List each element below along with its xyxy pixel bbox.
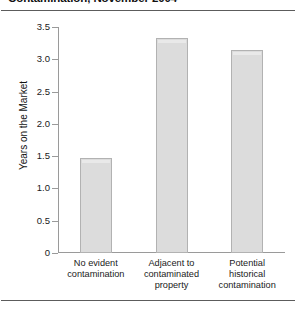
- y-axis-tick: [52, 188, 58, 189]
- y-axis-title: Years on the Market: [18, 56, 29, 196]
- y-axis-tick: [52, 221, 58, 222]
- figure-caption: Contamination, November 2004: [8, 0, 177, 4]
- bar: [80, 158, 112, 253]
- x-axis-label-line: Potential: [204, 258, 290, 269]
- x-axis-label: Adjacent tocontaminatedproperty: [129, 258, 215, 291]
- horizontal-rule-top: [1, 10, 295, 11]
- x-axis-label-line: property: [129, 280, 215, 291]
- y-axis-tick: [52, 124, 58, 125]
- x-axis-label-line: No evident: [53, 258, 139, 269]
- x-axis-label: No evidentcontamination: [53, 258, 139, 280]
- y-axis-tick-label: 3.5: [22, 21, 50, 32]
- y-axis-tick: [52, 59, 58, 60]
- x-axis-label: Potentialhistoricalcontamination: [204, 258, 290, 291]
- y-axis-tick: [52, 27, 58, 28]
- x-axis-label-line: Adjacent to: [129, 258, 215, 269]
- bar: [231, 50, 263, 253]
- x-axis-label-line: historical: [204, 269, 290, 280]
- y-axis-tick: [52, 156, 58, 157]
- y-axis-tick-label: 0: [22, 247, 50, 258]
- y-axis-tick: [52, 253, 58, 254]
- horizontal-rule-bottom: [1, 300, 295, 301]
- figure-container: Contamination, November 2004 00.51.01.52…: [0, 0, 297, 309]
- figure-caption-clip: Contamination, November 2004: [0, 0, 297, 9]
- y-axis-tick-label: 0.5: [22, 215, 50, 226]
- x-axis-label-line: contamination: [204, 280, 290, 291]
- x-axis-label-line: contaminated: [129, 269, 215, 280]
- y-axis-tick: [52, 92, 58, 93]
- x-axis-label-line: contamination: [53, 269, 139, 280]
- bar: [156, 38, 188, 253]
